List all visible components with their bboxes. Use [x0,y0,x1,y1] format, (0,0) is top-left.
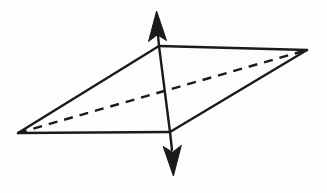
rhombus-axis-diagram [0,0,327,193]
figure-background [0,0,327,193]
figure-container [0,0,327,193]
edge-left-to-bottom [18,132,170,133]
